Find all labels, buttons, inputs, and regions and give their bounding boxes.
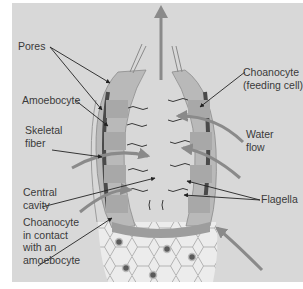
water-out-arrow (154, 5, 168, 80)
label-skeletal-fiber: Skeletalfiber (25, 124, 62, 149)
label-flagella: Flagella (261, 193, 298, 206)
label-choanocyte-amoebocyte: Choanocytein contactwith anamoebocyte (23, 216, 80, 266)
label-central-cavity: Centralcavity (23, 186, 57, 211)
label-choanocyte: Choanocyte(feeding cell) (243, 66, 303, 91)
left-body-wall (91, 70, 146, 228)
label-water-flow: Waterflow (246, 128, 274, 153)
label-amoebocyte: Amoebocyte (22, 94, 80, 107)
spicules (130, 44, 182, 73)
right-body-wall (172, 70, 216, 226)
label-pores: Pores (18, 40, 45, 53)
